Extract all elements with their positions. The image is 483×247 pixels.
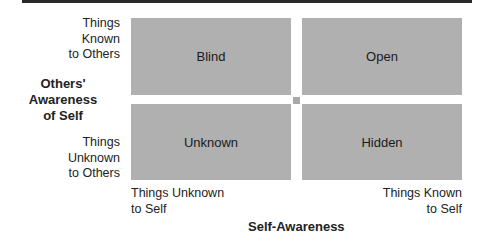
quadrant-open: Open [302,18,462,95]
quadrant-open-label: Open [366,49,398,64]
quadrant-blind: Blind [131,18,291,95]
y-axis-top-label: Things Known to Others [69,16,120,63]
y-axis-bottom-label: Things Unknown to Others [68,135,120,182]
y-axis-title: Others' Awareness of Self [28,76,98,124]
quadrant-unknown: Unknown [131,104,291,180]
quadrant-hidden: Hidden [302,104,462,180]
quadrant-hidden-label: Hidden [361,135,402,150]
quadrant-unknown-label: Unknown [184,135,238,150]
top-rule [22,0,472,3]
center-marker [293,97,300,104]
x-axis-title: Self-Awareness [248,219,345,235]
x-axis-right-label: Things Known to Self [383,186,462,217]
quadrant-blind-label: Blind [197,49,226,64]
x-axis-left-label: Things Unknown to Self [131,186,224,217]
